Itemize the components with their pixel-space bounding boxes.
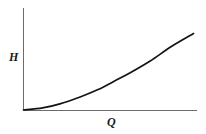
plot-area <box>0 0 206 134</box>
x-axis-label: Q <box>107 116 116 128</box>
y-axis-label: H <box>9 51 18 63</box>
figure-canvas: H Q <box>0 0 206 134</box>
data-curve <box>24 34 194 111</box>
